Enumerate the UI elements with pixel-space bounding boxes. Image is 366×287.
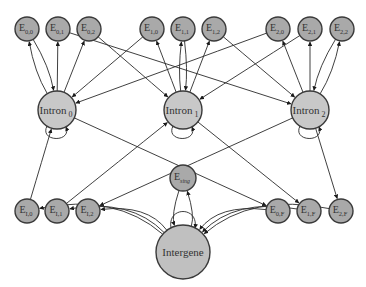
gene-model-state-diagram: E0,0E0,1E0,2E1,0E1,1E1,2E2,0E2,1E2,2Intr…	[0, 0, 366, 287]
edge-I1-to-E1F	[198, 122, 299, 203]
node-e12: E1,2	[202, 17, 226, 41]
edge-E11-to-I1	[185, 41, 187, 90]
edge-EI1-to-I1	[66, 123, 167, 204]
node-e01: E0,1	[46, 17, 70, 41]
node-e0f: E0,F	[266, 199, 290, 223]
node-ei2: EI,2	[76, 199, 100, 223]
node-esing: Esing	[170, 165, 196, 191]
edge-E21-to-I1	[200, 36, 300, 100]
node-e22: E2,2	[330, 17, 354, 41]
edge-I0-to-E0F	[74, 118, 266, 206]
edge-IG-to-Esing	[187, 191, 192, 226]
edge-I0-to-E00	[29, 42, 47, 94]
edge-I0-to-E02	[64, 41, 84, 92]
node-e1f: E1,F	[297, 199, 321, 223]
node-e2f: E2,F	[329, 199, 353, 223]
node-layer: E0,0E0,1E0,2E1,0E1,1E1,2E2,0E2,1E2,2Intr…	[15, 17, 354, 279]
edge-I1-to-E11	[180, 42, 182, 91]
node-ig: Intergene	[156, 225, 210, 279]
edge-I2-to-EI2	[100, 118, 293, 206]
edge-I1-to-E10	[157, 41, 177, 92]
edge-E22-to-I2	[314, 39, 336, 90]
edge-EI0-to-I0	[30, 129, 51, 199]
edge-Esing-to-IG	[173, 190, 179, 225]
node-e02: E0,2	[77, 17, 101, 41]
edge-E0F-to-IG	[200, 209, 266, 230]
node-e21: E2,1	[298, 17, 322, 41]
edge-E00-to-I0	[33, 39, 54, 90]
edge-I2-to-E2F	[316, 128, 338, 198]
edge-IG-to-EI2	[101, 209, 167, 231]
node-e10: E1,0	[140, 17, 164, 41]
node-e20: E2,0	[266, 17, 290, 41]
node-label: Intergene	[162, 246, 203, 258]
edge-I1-to-E12	[190, 41, 210, 92]
node-i2: Intron2	[291, 91, 329, 129]
node-ei0: EI,0	[15, 199, 39, 223]
node-ei1: EI,1	[45, 199, 69, 223]
node-e00: E0,0	[15, 17, 39, 41]
node-e11: E1,1	[171, 17, 195, 41]
edge-I2-to-E20	[283, 41, 303, 92]
node-i0: Intron0	[38, 91, 76, 129]
edge-layer	[29, 33, 339, 235]
edge-I0-to-E01	[57, 42, 58, 91]
node-i1: Intron1	[164, 91, 202, 129]
